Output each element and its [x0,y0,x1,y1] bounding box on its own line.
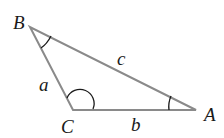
angle-mark-b [41,36,51,48]
vertex-label-c: C [61,117,74,136]
vertex-label-b: B [13,13,25,32]
triangle-figure [0,0,224,138]
angle-mark-a [169,96,171,110]
side-label-b: b [131,115,141,134]
side-label-c: c [117,49,125,68]
triangle-diagram: B C A a b c [0,0,224,138]
vertex-label-a: A [204,105,216,124]
triangle-outline [30,27,196,110]
side-label-a: a [39,75,49,94]
